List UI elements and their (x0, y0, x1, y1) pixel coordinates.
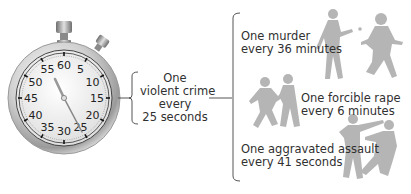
summary-line4: 25 seconds (140, 111, 210, 124)
crime-label-rape: One forcible rape every 6 minutes (301, 92, 401, 118)
victim-silhouette-icon (361, 13, 403, 78)
dial-number: 30 (57, 125, 71, 138)
dial-number: 60 (57, 59, 71, 72)
dial-number: 50 (28, 76, 42, 89)
dial-number: 10 (86, 76, 100, 89)
dial-number: 15 (90, 92, 104, 105)
dial-number: 5 (77, 63, 84, 76)
summary-text: One violent crime every 25 seconds (140, 72, 210, 124)
dial-number: 55 (41, 63, 55, 76)
dial-number: 45 (24, 92, 38, 105)
crime-label-assault: One aggravated assault every 41 seconds (241, 143, 379, 169)
crown-button-icon (56, 21, 72, 45)
dial-number: 35 (41, 121, 55, 134)
struggle-silhouette-icon (249, 74, 300, 128)
dial-number: 25 (74, 121, 88, 134)
dial-number: 20 (86, 109, 100, 122)
dial-number: 40 (28, 109, 42, 122)
crime-label-murder: One murder every 36 minutes (241, 30, 342, 56)
stopwatch: 60510152025303540455055 (0, 0, 140, 194)
